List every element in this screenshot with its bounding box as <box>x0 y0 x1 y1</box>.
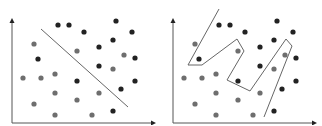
x-axis-arrow-icon <box>151 121 156 126</box>
point-class-a <box>227 22 232 27</box>
point-class-a <box>129 29 134 34</box>
y-axis-arrow-icon <box>10 18 15 23</box>
point-class-b <box>181 75 186 80</box>
point-class-b <box>213 112 218 117</box>
point-class-b <box>121 52 126 57</box>
point-class-a <box>196 56 201 61</box>
point-class-a <box>290 29 295 34</box>
point-class-b <box>52 90 57 95</box>
point-class-a <box>279 86 284 91</box>
point-class-b <box>74 48 79 53</box>
point-class-a <box>74 78 79 83</box>
point-class-b <box>31 101 36 106</box>
point-class-b <box>96 90 101 95</box>
point-class-a <box>96 63 101 68</box>
point-class-a <box>132 78 137 83</box>
point-class-a <box>96 44 101 49</box>
point-class-b <box>271 66 276 71</box>
point-class-b <box>52 71 57 76</box>
point-class-a <box>118 86 123 91</box>
point-class-b <box>235 97 240 102</box>
point-class-b <box>192 101 197 106</box>
point-class-a <box>216 22 221 27</box>
point-class-b <box>213 71 218 76</box>
point-class-a <box>274 18 279 23</box>
x-axis-arrow-icon <box>312 121 317 126</box>
point-class-b <box>74 97 79 102</box>
point-class-a <box>257 44 262 49</box>
point-class-a <box>110 37 115 42</box>
point-class-a <box>293 55 298 60</box>
point-class-a <box>66 22 71 27</box>
point-class-b <box>20 75 25 80</box>
point-class-a <box>35 56 40 61</box>
point-class-b <box>38 75 43 80</box>
point-class-b <box>192 41 197 46</box>
point-class-a <box>257 63 262 68</box>
point-class-a <box>242 29 247 34</box>
point-class-b <box>235 48 240 53</box>
diagram-stage <box>0 0 322 125</box>
point-class-a <box>271 108 276 113</box>
point-class-b <box>213 90 218 95</box>
point-class-b <box>110 66 115 71</box>
point-class-b <box>52 112 57 117</box>
scatter-diagrams <box>0 0 322 125</box>
point-class-b <box>282 52 287 57</box>
point-class-b <box>257 90 262 95</box>
y-axis-arrow-icon <box>171 18 176 23</box>
point-class-a <box>81 29 86 34</box>
point-class-a <box>113 18 118 23</box>
point-class-a <box>55 22 60 27</box>
point-class-a <box>235 78 240 83</box>
panel-linear-boundary <box>10 18 157 125</box>
point-class-a <box>110 108 115 113</box>
point-class-a <box>132 55 137 60</box>
point-class-b <box>250 112 255 117</box>
point-class-a <box>293 78 298 83</box>
point-class-a <box>271 37 276 42</box>
point-class-b <box>89 112 94 117</box>
point-class-b <box>31 41 36 46</box>
point-class-b <box>199 75 204 80</box>
panel-overfit-boundary <box>171 9 318 125</box>
